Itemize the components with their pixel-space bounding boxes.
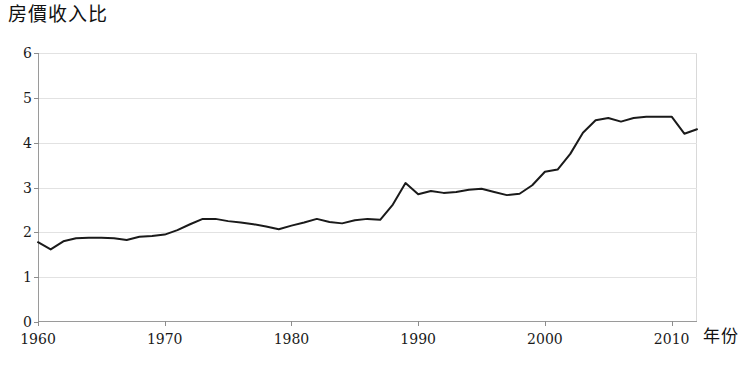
y-tick-label-4: 4 bbox=[10, 136, 32, 150]
series-line-0 bbox=[38, 117, 697, 250]
plot-area bbox=[38, 53, 697, 322]
x-tick-label-2000: 2000 bbox=[527, 331, 563, 347]
y-tick-label-6: 6 bbox=[10, 46, 32, 60]
series-line-group bbox=[38, 53, 697, 322]
y-tick-label-5: 5 bbox=[10, 91, 32, 105]
y-tick-label-0: 0 bbox=[10, 315, 32, 329]
x-tick-label-1990: 1990 bbox=[400, 331, 436, 347]
x-tick-label-2010: 2010 bbox=[654, 331, 690, 347]
price-to-income-ratio-chart: 房價收入比 0123456 196019701980199020002010 年… bbox=[0, 0, 749, 383]
x-axis-labels: 196019701980199020002010 bbox=[38, 331, 697, 351]
chart-title: 房價收入比 bbox=[8, 2, 108, 26]
y-axis-labels: 0123456 bbox=[4, 53, 32, 322]
x-axis-title: 年份 bbox=[703, 326, 738, 346]
x-tick-label-1970: 1970 bbox=[147, 331, 183, 347]
y-tick-label-1: 1 bbox=[10, 270, 32, 284]
y-tick-label-2: 2 bbox=[10, 225, 32, 239]
y-tick-label-3: 3 bbox=[10, 181, 32, 195]
x-tick-label-1980: 1980 bbox=[274, 331, 310, 347]
x-tick-label-1960: 1960 bbox=[20, 331, 56, 347]
